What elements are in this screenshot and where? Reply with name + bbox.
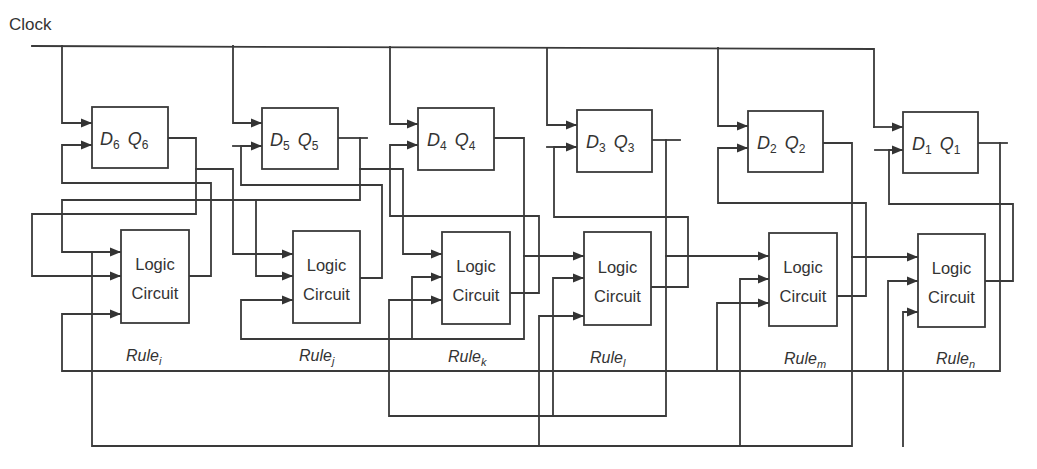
svg-text:Logic: Logic — [598, 258, 637, 276]
svg-text:Logic: Logic — [135, 255, 174, 273]
logic-circuit-j: Logic Circuit — [293, 231, 360, 323]
svg-text:Circuit: Circuit — [928, 288, 975, 306]
svg-text:Circuit: Circuit — [453, 286, 500, 304]
svg-text:Circuit: Circuit — [132, 284, 179, 302]
wire-q3-to-logic-l — [553, 278, 584, 416]
rule-label-j: Rulej — [299, 347, 335, 367]
logic-circuit-n: Logic Circuit — [918, 234, 985, 327]
svg-text:Logic: Logic — [932, 259, 971, 277]
clock-to-d4 — [390, 47, 418, 124]
wire-q4-to-logic-k — [412, 277, 442, 339]
cellular-automaton-circuit-diagram: Clock D6Q6 — [0, 0, 1037, 469]
svg-text:Logic: Logic — [456, 257, 495, 275]
rule-label-l: Rulel — [590, 349, 626, 369]
flip-flop-5: D5Q5 — [262, 108, 338, 169]
flip-flop-3: D3Q3 — [577, 110, 652, 172]
wire-q5-to-logic-k — [360, 169, 442, 254]
logic-circuit-m: Logic Circuit — [769, 233, 837, 326]
flip-flop-6: D6Q6 — [92, 107, 168, 168]
logic-circuit-i: Logic Circuit — [121, 230, 189, 323]
svg-text:Logic: Logic — [783, 258, 822, 276]
wire-q2-to-logic-m — [740, 279, 769, 446]
svg-text:Circuit: Circuit — [594, 287, 641, 305]
svg-text:Circuit: Circuit — [303, 285, 350, 303]
rule-label-k: Rulek — [448, 348, 487, 368]
clock-to-d6 — [62, 46, 92, 123]
logic-circuit-k: Logic Circuit — [442, 232, 510, 324]
rule-label-m: Rulem — [784, 350, 826, 370]
flip-flop-1: D1Q1 — [903, 112, 978, 173]
wire-q1-to-logic-m — [717, 303, 769, 371]
wire-q5-to-logic-j — [256, 200, 293, 276]
wire-q2-to-logic-n-3 — [903, 312, 918, 446]
rule-label-n: Rulen — [936, 350, 975, 370]
svg-text:Circuit: Circuit — [780, 287, 827, 305]
wire-q2-to-logic-l — [539, 316, 584, 446]
rule-label-i: Rulei — [126, 347, 162, 367]
clock-to-d2 — [718, 48, 748, 126]
flip-flop-4: D4Q4 — [418, 108, 494, 170]
flip-flop-2: D2Q2 — [748, 111, 823, 172]
logic-circuit-l: Logic Circuit — [584, 232, 651, 325]
clock-to-d5 — [233, 46, 262, 123]
clock-label: Clock — [9, 15, 52, 34]
clock-to-d3 — [547, 48, 577, 125]
svg-text:Logic: Logic — [307, 256, 346, 274]
